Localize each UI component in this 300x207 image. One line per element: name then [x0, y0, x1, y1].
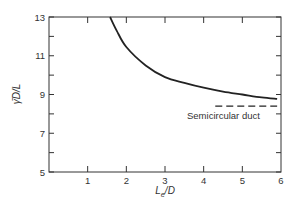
x-axis-label: Le/D	[155, 185, 175, 199]
x-tick-label: 2	[124, 175, 129, 186]
data-series	[110, 17, 277, 106]
y-tick-label: 13	[34, 12, 45, 23]
x-tick-label: 5	[240, 175, 245, 186]
semicircular-duct-label: Semicircular duct	[187, 110, 260, 121]
x-tick-label: 4	[201, 175, 206, 186]
x-tick-label: 6	[278, 175, 283, 186]
chart: 5791113 123456 γ̄D/L Le/D Semicircular d…	[0, 0, 300, 207]
y-tick-label: 5	[40, 167, 45, 178]
y-tick-label: 9	[40, 89, 45, 100]
y-tick-label: 11	[35, 50, 45, 61]
y-tick-label: 7	[40, 128, 45, 139]
y-axis-label: γ̄D/L	[11, 84, 22, 105]
main-curve	[110, 17, 277, 99]
x-tick-label: 1	[85, 175, 90, 186]
x-axis-ticks: 123456	[85, 17, 284, 186]
